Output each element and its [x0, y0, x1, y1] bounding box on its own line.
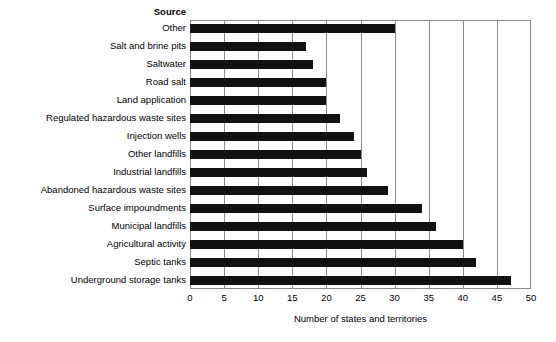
bar: [190, 276, 511, 285]
x-tick-label: 30: [389, 292, 400, 304]
category-label: Underground storage tanks: [0, 275, 186, 285]
bar: [190, 168, 367, 177]
category-axis-labels: OtherSalt and brine pitsSaltwaterRoad sa…: [0, 20, 186, 289]
category-label: Injection wells: [0, 131, 186, 141]
x-tick-label: 15: [287, 292, 298, 304]
x-tick-label: 10: [253, 292, 264, 304]
x-axis-tick-labels: 05101520253035404550: [190, 292, 531, 306]
x-tick-label: 35: [423, 292, 434, 304]
bar: [190, 240, 463, 249]
category-label: Land application: [0, 95, 186, 105]
bar: [190, 60, 313, 69]
category-label: Municipal landfills: [0, 221, 186, 231]
bars-layer: [190, 20, 531, 289]
x-tick-label: 0: [187, 292, 192, 304]
bar: [190, 150, 361, 159]
category-label: Industrial landfills: [0, 167, 186, 177]
source-column-header: Source: [0, 6, 186, 17]
category-label: Abandoned hazardous waste sites: [0, 185, 186, 195]
category-label: Agricultural activity: [0, 239, 186, 249]
x-tick-label: 50: [526, 292, 537, 304]
category-label: Septic tanks: [0, 257, 186, 267]
bar: [190, 186, 388, 195]
category-label: Regulated hazardous waste sites: [0, 113, 186, 123]
bar: [190, 258, 476, 267]
bar-chart: Source OtherSalt and brine pitsSaltwater…: [0, 0, 556, 342]
x-tick-label: 45: [492, 292, 503, 304]
bar: [190, 114, 340, 123]
bar: [190, 24, 395, 33]
bar: [190, 42, 306, 51]
bar: [190, 222, 436, 231]
category-label: Other: [0, 23, 186, 33]
category-label: Other landfills: [0, 149, 186, 159]
bar: [190, 96, 326, 105]
category-label: Salt and brine pits: [0, 41, 186, 51]
bar: [190, 132, 354, 141]
x-tick-label: 40: [458, 292, 469, 304]
x-tick-label: 5: [221, 292, 226, 304]
category-label: Road salt: [0, 77, 186, 87]
bar: [190, 78, 326, 87]
category-label: Saltwater: [0, 59, 186, 69]
bar: [190, 204, 422, 213]
x-axis-title: Number of states and territories: [190, 313, 531, 325]
category-label: Surface impoundments: [0, 203, 186, 213]
x-tick-label: 20: [321, 292, 332, 304]
x-tick-label: 25: [355, 292, 366, 304]
